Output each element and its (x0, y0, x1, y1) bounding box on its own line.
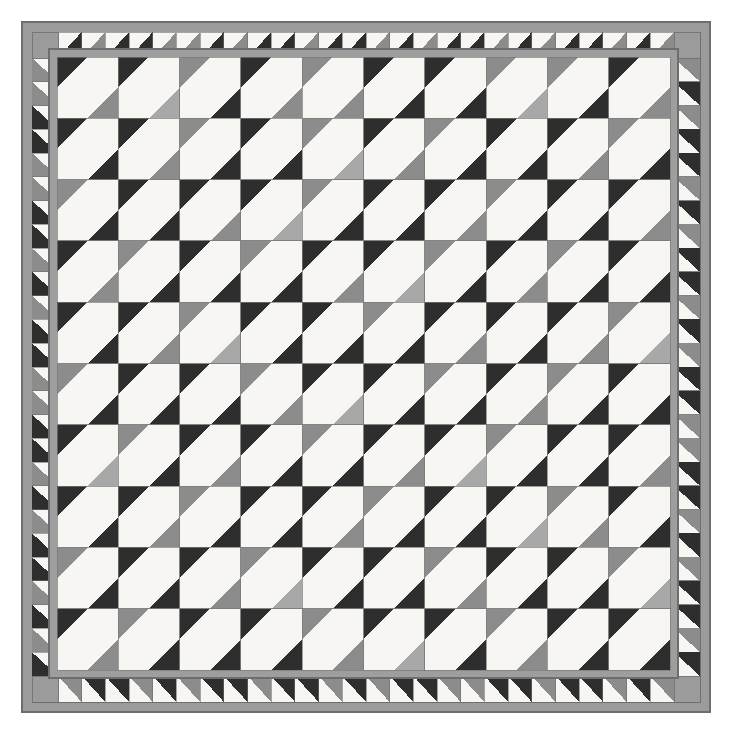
quilt-block (180, 57, 241, 118)
quilt-block (486, 241, 547, 302)
border-bottom-tooth (58, 676, 82, 702)
quilt-block (118, 425, 179, 486)
quilt-block (302, 547, 363, 608)
quilt-artwork (0, 0, 731, 731)
quilt-block (180, 425, 241, 486)
quilt-block (547, 425, 608, 486)
quilt-block (486, 425, 547, 486)
quilt-block (486, 609, 547, 670)
quilt-block (302, 364, 363, 425)
border-bottom-tooth (650, 676, 674, 702)
border-bottom-tooth (556, 676, 580, 702)
quilt-block (547, 364, 608, 425)
quilt-block (302, 425, 363, 486)
quilt-block (364, 425, 425, 486)
quilt-block (57, 302, 118, 363)
quilt-block (425, 609, 486, 670)
border-bottom-tooth (200, 676, 224, 702)
quilt-block (180, 364, 241, 425)
quilt-block (547, 609, 608, 670)
quilt-block (57, 57, 118, 118)
border-bottom-tooth (153, 676, 177, 702)
quilt-block (425, 364, 486, 425)
quilt-block (241, 425, 302, 486)
quilt-block (425, 425, 486, 486)
quilt-block (547, 118, 608, 179)
quilt-block (486, 547, 547, 608)
quilt-block (57, 180, 118, 241)
border-bottom-tooth (176, 676, 200, 702)
quilt-block (118, 547, 179, 608)
quilt-block (364, 364, 425, 425)
quilt-block (302, 57, 363, 118)
quilt-block (609, 180, 670, 241)
quilt-block (118, 57, 179, 118)
quilt-block (364, 241, 425, 302)
border-bottom-tooth (508, 676, 532, 702)
quilt-block (57, 425, 118, 486)
quilt-block (609, 241, 670, 302)
quilt-block (609, 425, 670, 486)
quilt-block (547, 180, 608, 241)
quilt-center-field (57, 57, 670, 670)
quilt-block (118, 609, 179, 670)
border-bottom-tooth (579, 676, 603, 702)
border-bottom-tooth (390, 676, 414, 702)
quilt-block (609, 547, 670, 608)
quilt-block (547, 241, 608, 302)
quilt-block (241, 118, 302, 179)
quilt-block (425, 118, 486, 179)
quilt-block (180, 609, 241, 670)
quilt-block (425, 547, 486, 608)
quilt-block (241, 609, 302, 670)
border-bottom-tooth (319, 676, 343, 702)
quilt-block (241, 57, 302, 118)
quilt-block (547, 302, 608, 363)
quilt-block (118, 118, 179, 179)
quilt-block (302, 241, 363, 302)
quilt-block (302, 180, 363, 241)
quilt-block (486, 486, 547, 547)
quilt-block (118, 302, 179, 363)
quilt-block (57, 364, 118, 425)
quilt-block (547, 547, 608, 608)
quilt-block (180, 486, 241, 547)
quilt-block (486, 57, 547, 118)
quilt-block (57, 486, 118, 547)
quilt-block (118, 364, 179, 425)
quilt-block (118, 486, 179, 547)
border-bottom-tooth (627, 676, 651, 702)
quilt-block (118, 241, 179, 302)
quilt-block (364, 486, 425, 547)
quilt-block (57, 609, 118, 670)
quilt-block (180, 241, 241, 302)
border-bottom-tooth (603, 676, 627, 702)
quilt-block (57, 118, 118, 179)
quilt-block (425, 241, 486, 302)
quilt-block (302, 118, 363, 179)
border-bottom-tooth (532, 676, 556, 702)
quilt-block (241, 547, 302, 608)
quilt-block (364, 609, 425, 670)
quilt-block (547, 57, 608, 118)
quilt-block (486, 118, 547, 179)
quilt-block (547, 486, 608, 547)
border-bottom-tooth (366, 676, 390, 702)
border-bottom-tooth (129, 676, 153, 702)
quilt-block (364, 180, 425, 241)
quilt-block (425, 57, 486, 118)
quilt-block (364, 547, 425, 608)
quilt-block (425, 486, 486, 547)
border-bottom-tooth (82, 676, 106, 702)
quilt-canvas (0, 0, 731, 731)
border-bottom-tooth (342, 676, 366, 702)
quilt-block (364, 118, 425, 179)
border-bottom-tooth (413, 676, 437, 702)
quilt-block (57, 241, 118, 302)
quilt-block (609, 609, 670, 670)
border-corner-square-3 (674, 676, 700, 702)
border-bottom-tooth (295, 676, 319, 702)
quilt-block (364, 57, 425, 118)
quilt-block (486, 364, 547, 425)
border-bottom-tooth (248, 676, 272, 702)
